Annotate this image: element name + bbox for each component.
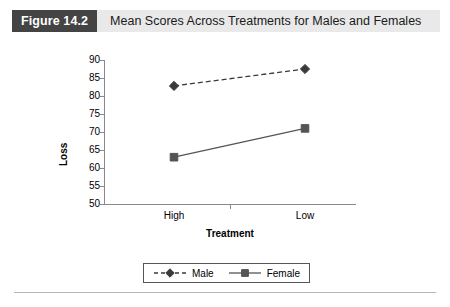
y-axis-tick-label: 75 <box>89 109 100 119</box>
y-axis-tick-mark <box>100 78 104 79</box>
y-axis-title: Loss <box>58 143 69 166</box>
y-axis-tick-label: 85 <box>89 73 100 83</box>
y-axis-tick-mark <box>100 60 104 61</box>
y-axis-tick-mark <box>100 186 104 187</box>
plot-area <box>104 60 356 204</box>
legend-label: Female <box>267 268 300 279</box>
y-axis-tick-mark <box>100 132 104 133</box>
y-axis-tick-label: 70 <box>89 127 100 137</box>
y-axis-tick-label: 55 <box>89 181 100 191</box>
legend-entry-female: Female <box>228 267 300 279</box>
legend-label: Male <box>192 268 214 279</box>
y-axis-tick-mark <box>100 168 104 169</box>
data-point-marker-female <box>301 125 309 133</box>
series-line-male <box>174 69 305 86</box>
x-axis-tick-labels: HighLow <box>104 210 356 224</box>
data-point-marker-female <box>170 153 178 161</box>
x-axis-title: Treatment <box>104 228 356 239</box>
y-axis-tick-mark <box>100 96 104 97</box>
chart-canvas: Loss 505560657075808590 HighLow Treatmen… <box>0 38 450 288</box>
y-axis-tick-label: 60 <box>89 163 100 173</box>
x-axis-tick-label: High <box>164 210 185 221</box>
figure-number-badge: Figure 14.2 <box>12 10 97 32</box>
data-series-layer <box>104 60 356 204</box>
y-axis-tick-label: 90 <box>89 55 100 65</box>
y-axis-tick-label: 65 <box>89 145 100 155</box>
footer-divider <box>14 292 436 293</box>
figure-title: Mean Scores Across Treatments for Males … <box>97 10 421 32</box>
figure-header: Figure 14.2 Mean Scores Across Treatment… <box>12 10 440 32</box>
series-line-female <box>174 128 305 157</box>
square-marker-icon <box>228 267 262 279</box>
data-point-marker-male <box>169 81 178 90</box>
y-axis-tick-label: 80 <box>89 91 100 101</box>
y-axis-tick-mark <box>100 114 104 115</box>
x-axis-tick-label: Low <box>296 210 314 221</box>
diamond-marker-icon <box>153 267 187 279</box>
y-axis-tick-label: 50 <box>89 199 100 209</box>
chart-legend: MaleFemale <box>143 263 310 283</box>
y-axis-tick-mark <box>100 150 104 151</box>
legend-entry-male: Male <box>153 267 214 279</box>
data-point-marker-male <box>300 64 309 73</box>
x-axis-center-tick <box>230 204 231 209</box>
y-axis-tick-mark <box>100 204 104 205</box>
y-axis-tick-labels: 505560657075808590 <box>74 60 100 204</box>
